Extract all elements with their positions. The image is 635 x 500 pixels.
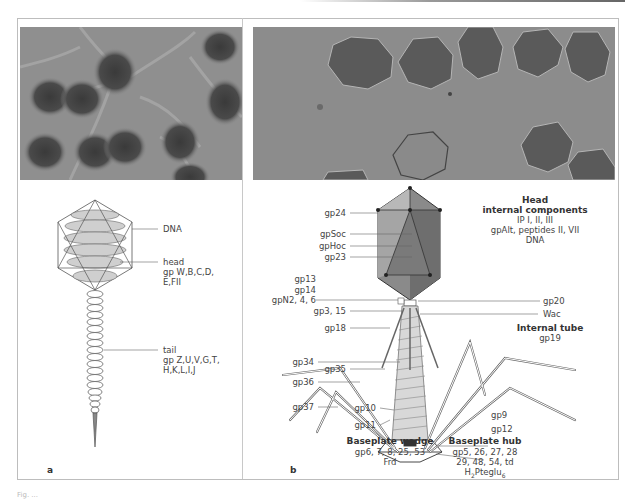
label-head-title: head <box>163 257 184 267</box>
head-internal-title2: internal components <box>470 205 600 215</box>
label-head-line1: gp W,B,C,D, <box>163 267 214 277</box>
baseplate-wedge-title: Baseplate wedge <box>345 436 435 446</box>
internal-tube-title: Internal tube <box>510 323 590 333</box>
t4-tail-sheath-icon <box>382 306 438 440</box>
hub-pteglu: Pteglu <box>475 467 502 477</box>
internal-tube-line1: gp19 <box>510 333 590 343</box>
label-gp23: gp23 <box>296 252 346 262</box>
hub-sub2: 6 <box>502 472 506 479</box>
label-gpsoc: gpSoc <box>296 229 346 239</box>
baseplate-hub-line3: H2Pteglu6 <box>445 467 525 481</box>
head-internal-line2: gpAlt, peptides II, VII <box>470 225 600 235</box>
lambda-tail-icon <box>87 291 103 448</box>
label-gp36: gp36 <box>264 377 314 387</box>
label-gp10: gp10 <box>326 403 376 413</box>
label-gp18: gp18 <box>296 323 346 333</box>
baseplate-wedge-line1: gp6, 7, 8, 25, 53 <box>345 447 435 457</box>
panel-letter-a: a <box>47 465 53 475</box>
label-dna-a: DNA <box>163 224 182 234</box>
label-wac: Wac <box>543 309 561 319</box>
label-gp14: gp14 <box>266 285 316 295</box>
label-gp12: gp12 <box>491 424 513 434</box>
label-gp11: gp11 <box>326 420 376 430</box>
label-gphoc: gpHoc <box>296 241 346 251</box>
label-gpn2-4-6: gpN2, 4, 6 <box>256 295 316 305</box>
label-gp37: gp37 <box>264 402 314 412</box>
baseplate-wedge-line2: Frd <box>345 457 435 467</box>
lambda-head-icon <box>58 200 132 290</box>
label-head-line2: E,FII <box>163 277 181 287</box>
t4-head-icon <box>376 186 442 300</box>
label-tail-line2: H,K,L,I,J <box>163 365 196 375</box>
head-internal-line3: DNA <box>470 235 600 245</box>
label-tail-title: tail <box>163 345 176 355</box>
t4-neck-icon <box>404 300 416 306</box>
label-gp35: gp35 <box>296 364 346 374</box>
figure-caption-partial: Fig. ... <box>17 491 38 499</box>
head-internal-title1: Head <box>470 195 600 205</box>
label-tail-line1: gp Z,U,V,G,T, <box>163 355 220 365</box>
label-gp24: gp24 <box>296 208 346 218</box>
head-internal-line1: IP I, II, III <box>470 215 600 225</box>
label-gp9: gp9 <box>491 410 507 420</box>
label-gp3-15: gp3, 15 <box>286 306 346 316</box>
label-gp13: gp13 <box>266 274 316 284</box>
panel-letter-b: b <box>290 465 296 475</box>
label-gp20: gp20 <box>543 296 565 306</box>
baseplate-hub-title: Baseplate hub <box>445 436 525 446</box>
baseplate-hub-line1: gp5, 26, 27, 28 <box>445 447 525 457</box>
baseplate-hub-line2: 29, 48, 54, td <box>445 457 525 467</box>
